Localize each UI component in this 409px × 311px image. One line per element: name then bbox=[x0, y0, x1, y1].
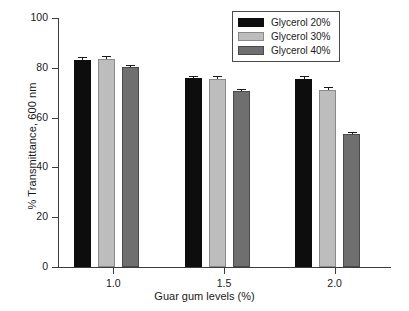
x-axis-label: Guar gum levels (%) bbox=[0, 290, 409, 302]
legend-label-series-1: Glycerol 30% bbox=[271, 31, 330, 42]
error-bar-1.0-series-1 bbox=[106, 57, 107, 59]
bar-2.0-series-0 bbox=[295, 79, 312, 267]
y-tick-label-20: 20 bbox=[8, 211, 48, 222]
legend-item-glycerol-30: Glycerol 30% bbox=[238, 30, 334, 43]
error-bar-2.0-series-0 bbox=[304, 77, 305, 79]
legend-swatch-icon-series-0 bbox=[238, 18, 264, 27]
bar-chart: % Transmittance, 600 nm 020406080100 1.0… bbox=[0, 0, 409, 311]
error-cap-2.0-series-1 bbox=[324, 87, 333, 88]
x-tick-label-2.0: 2.0 bbox=[310, 277, 360, 289]
x-tick-1.5 bbox=[224, 268, 225, 274]
error-bar-2.0-series-2 bbox=[352, 133, 353, 134]
error-cap-1.0-series-2 bbox=[126, 65, 135, 66]
bar-2.0-series-2 bbox=[343, 134, 360, 267]
error-cap-2.0-series-0 bbox=[300, 76, 309, 77]
bar-1.0-series-0 bbox=[74, 60, 91, 267]
error-bar-1.0-series-2 bbox=[130, 66, 131, 67]
legend-swatch-icon-series-1 bbox=[238, 32, 264, 41]
x-tick-1.0 bbox=[113, 268, 114, 274]
y-tick-label-60: 60 bbox=[8, 112, 48, 123]
y-axis-label: % Transmittance, 600 nm bbox=[26, 56, 38, 236]
bar-1.5-series-0 bbox=[185, 78, 202, 267]
y-tick-label-0: 0 bbox=[8, 261, 48, 272]
error-bar-1.5-series-0 bbox=[193, 77, 194, 78]
error-bar-1.0-series-0 bbox=[82, 58, 83, 60]
error-cap-2.0-series-2 bbox=[348, 132, 357, 133]
y-tick-0 bbox=[52, 267, 58, 268]
x-tick-label-1.0: 1.0 bbox=[88, 277, 138, 289]
bar-1.5-series-2 bbox=[233, 91, 250, 267]
error-cap-1.0-series-0 bbox=[78, 57, 87, 58]
plot-area bbox=[58, 18, 390, 267]
error-bar-1.5-series-2 bbox=[241, 90, 242, 91]
legend-label-series-2: Glycerol 40% bbox=[271, 45, 330, 56]
y-tick-label-100: 100 bbox=[8, 12, 48, 23]
error-cap-1.5-series-1 bbox=[213, 76, 222, 77]
error-cap-1.0-series-1 bbox=[102, 56, 111, 57]
bar-2.0-series-1 bbox=[319, 90, 336, 267]
legend-label-series-0: Glycerol 20% bbox=[271, 17, 330, 28]
chart-legend: Glycerol 20% Glycerol 30% Glycerol 40% bbox=[232, 11, 340, 62]
bar-1.0-series-1 bbox=[98, 59, 115, 267]
legend-item-glycerol-40: Glycerol 40% bbox=[238, 44, 334, 57]
x-tick-2.0 bbox=[335, 268, 336, 274]
y-tick-label-80: 80 bbox=[8, 62, 48, 73]
error-bar-2.0-series-1 bbox=[328, 88, 329, 89]
bar-1.0-series-2 bbox=[122, 67, 139, 267]
error-cap-1.5-series-2 bbox=[237, 89, 246, 90]
x-tick-label-1.5: 1.5 bbox=[199, 277, 249, 289]
error-bar-1.5-series-1 bbox=[217, 77, 218, 78]
y-tick-label-40: 40 bbox=[8, 161, 48, 172]
error-cap-1.5-series-0 bbox=[189, 76, 198, 77]
legend-item-glycerol-20: Glycerol 20% bbox=[238, 16, 334, 29]
bar-1.5-series-1 bbox=[209, 79, 226, 267]
legend-swatch-icon-series-2 bbox=[238, 46, 264, 55]
